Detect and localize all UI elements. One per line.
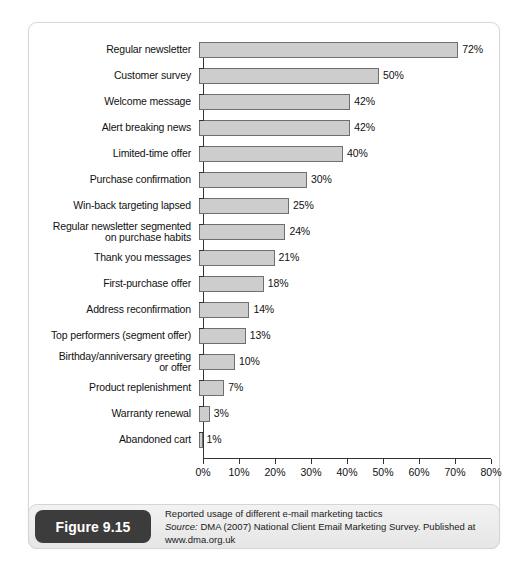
bar-category-label: Limited-time offer <box>29 148 197 160</box>
value-axis-tick <box>239 459 240 464</box>
bar-value-label: 13% <box>250 329 271 341</box>
value-axis-tick-label: 40% <box>336 466 357 478</box>
value-axis-tick-label: 60% <box>408 466 429 478</box>
bar-row: Welcome message42% <box>29 89 501 115</box>
category-axis-tick <box>199 354 204 355</box>
bar-track: 50% <box>197 63 501 89</box>
bar-row: Purchase confirmation30% <box>29 167 501 193</box>
bar-row: Win-back targeting lapsed25% <box>29 193 501 219</box>
figure-card: Regular newsletter72%Customer survey50%W… <box>28 22 500 549</box>
bar-category-label: Thank you messages <box>29 252 197 264</box>
bar-track: 13% <box>197 323 501 349</box>
bar <box>199 328 246 344</box>
bar <box>199 42 458 58</box>
bar <box>199 146 343 162</box>
bar-value-label: 7% <box>228 381 243 393</box>
bar-track: 10% <box>197 349 501 375</box>
category-axis-tick <box>199 328 204 329</box>
bar-track: 42% <box>197 115 501 141</box>
bar-category-label: Product replenishment <box>29 382 197 394</box>
bar-track: 3% <box>197 401 501 427</box>
bar-category-label: Alert breaking news <box>29 122 197 134</box>
bar-category-label: Purchase confirmation <box>29 174 197 186</box>
bar-category-label: Warranty renewal <box>29 408 197 420</box>
bar <box>199 250 275 266</box>
bar-category-label: First-purchase offer <box>29 278 197 290</box>
value-axis-tick-label: 10% <box>228 466 249 478</box>
bar-row: Birthday/anniversary greeting or offer10… <box>29 349 501 375</box>
bar-value-label: 50% <box>383 69 404 81</box>
bar-value-label: 25% <box>293 199 314 211</box>
value-axis-tick <box>347 459 348 464</box>
category-axis-tick <box>199 432 204 433</box>
value-axis-tick <box>455 459 456 464</box>
bar <box>199 276 264 292</box>
value-axis-tick <box>275 459 276 464</box>
bar-rows: Regular newsletter72%Customer survey50%W… <box>29 37 501 453</box>
bar <box>199 380 224 396</box>
bar-value-label: 21% <box>279 251 300 263</box>
bar-value-label: 72% <box>462 43 483 55</box>
bar-category-label: Abandoned cart <box>29 434 197 446</box>
bar-value-label: 42% <box>354 121 375 133</box>
bar <box>199 94 350 110</box>
category-axis-tick <box>199 250 204 251</box>
bar-track: 14% <box>197 297 501 323</box>
bar-row: First-purchase offer18% <box>29 271 501 297</box>
value-axis-tick <box>383 459 384 464</box>
bar-track: 18% <box>197 271 501 297</box>
bar-value-label: 42% <box>354 95 375 107</box>
bar-track: 72% <box>197 37 501 63</box>
category-axis-tick <box>199 68 204 69</box>
value-axis-tick-label: 20% <box>264 466 285 478</box>
bar-row: Product replenishment7% <box>29 375 501 401</box>
category-axis-tick <box>199 224 204 225</box>
figure-number-badge: Figure 9.15 <box>35 510 151 543</box>
bar <box>199 68 379 84</box>
bar-value-label: 10% <box>239 355 260 367</box>
bar-track: 40% <box>197 141 501 167</box>
bar-track: 1% <box>197 427 501 453</box>
bar <box>199 120 350 136</box>
bar-category-label: Welcome message <box>29 96 197 108</box>
bar <box>199 432 203 448</box>
bar-category-label: Birthday/anniversary greeting or offer <box>29 351 197 374</box>
bar-value-label: 3% <box>214 407 229 419</box>
bar-row: Abandoned cart1% <box>29 427 501 453</box>
value-axis-tick-label: 50% <box>372 466 393 478</box>
bar-row: Customer survey50% <box>29 63 501 89</box>
bar-track: 7% <box>197 375 501 401</box>
category-axis-tick <box>199 94 204 95</box>
value-axis-tick-label: 70% <box>444 466 465 478</box>
category-axis-tick <box>199 146 204 147</box>
value-axis-tick-label: 30% <box>300 466 321 478</box>
bar <box>199 224 285 240</box>
bar-row: Alert breaking news42% <box>29 115 501 141</box>
bar-row: Limited-time offer40% <box>29 141 501 167</box>
value-axis-tick <box>419 459 420 464</box>
category-axis-tick <box>199 380 204 381</box>
figure-caption-text: Reported usage of different e-mail marke… <box>165 507 499 546</box>
bar-track: 21% <box>197 245 501 271</box>
bar-row: Warranty renewal3% <box>29 401 501 427</box>
category-axis-tick <box>199 172 204 173</box>
bar <box>199 198 289 214</box>
category-axis-tick <box>199 120 204 121</box>
bar-category-label: Address reconfirmation <box>29 304 197 316</box>
bar-track: 24% <box>197 219 501 245</box>
bar-value-label: 18% <box>268 277 289 289</box>
bar-track: 25% <box>197 193 501 219</box>
caption-title: Reported usage of different e-mail marke… <box>165 507 499 520</box>
bar <box>199 172 307 188</box>
bar-row: Thank you messages21% <box>29 245 501 271</box>
category-axis-tick <box>199 406 204 407</box>
category-axis-tick <box>199 302 204 303</box>
bar <box>199 406 210 422</box>
bar-value-label: 1% <box>207 433 222 445</box>
figure-caption-strip: Figure 9.15 Reported usage of different … <box>28 504 500 549</box>
category-axis-tick <box>199 198 204 199</box>
bar-row: Top performers (segment offer)13% <box>29 323 501 349</box>
bar-category-label: Customer survey <box>29 70 197 82</box>
value-axis-tick <box>491 459 492 464</box>
bar-chart: Regular newsletter72%Customer survey50%W… <box>29 29 501 499</box>
